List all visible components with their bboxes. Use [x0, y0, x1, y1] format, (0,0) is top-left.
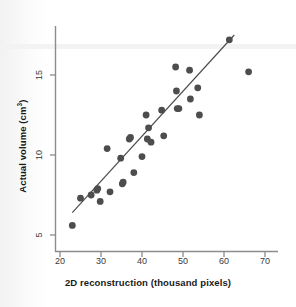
y-axis-ticks: [50, 75, 55, 235]
scatter-plot-figure: 203040506070 51015 2D reconstruction (th…: [0, 0, 296, 307]
data-point: [143, 112, 150, 119]
data-point: [107, 188, 114, 195]
data-point: [127, 134, 134, 141]
data-point: [172, 64, 179, 71]
x-tick-label-30: 30: [96, 256, 106, 266]
data-point: [145, 124, 152, 131]
data-point: [194, 84, 201, 91]
data-point: [148, 139, 155, 146]
data-point: [160, 132, 167, 139]
x-axis-label: 2D reconstruction (thousand pixels): [0, 277, 296, 288]
data-point: [130, 169, 137, 176]
data-point: [186, 67, 193, 74]
data-point: [173, 88, 180, 95]
data-point: [117, 155, 124, 162]
data-point: [77, 195, 84, 202]
plot-canvas: [0, 0, 296, 307]
x-tick-label-50: 50: [178, 256, 188, 266]
x-tick-label-60: 60: [219, 256, 229, 266]
data-point: [176, 105, 183, 112]
y-tick-label-5: 5: [34, 228, 44, 242]
data-point: [120, 179, 127, 186]
x-axis-ticks: [60, 252, 265, 257]
x-tick-label-40: 40: [137, 256, 147, 266]
data-point: [97, 198, 104, 205]
data-point: [158, 107, 165, 114]
y-axis-label-base: Actual volume (cm: [17, 106, 28, 192]
data-point: [187, 96, 194, 103]
y-axis-label-exponent: 3: [16, 103, 23, 107]
data-point: [226, 36, 233, 43]
data-points: [69, 36, 252, 228]
data-point: [88, 192, 95, 199]
y-axis-label: Actual volume (cm3): [16, 76, 28, 216]
data-point: [196, 112, 203, 119]
data-point: [139, 153, 146, 160]
data-point: [245, 68, 252, 75]
x-tick-label-70: 70: [260, 256, 270, 266]
x-tick-label-20: 20: [55, 256, 65, 266]
data-point: [69, 222, 76, 229]
y-axis-label-tail: ): [17, 100, 28, 103]
data-point: [104, 145, 111, 152]
y-tick-label-10: 10: [34, 148, 44, 162]
data-point: [94, 185, 101, 192]
y-tick-label-15: 15: [34, 68, 44, 82]
